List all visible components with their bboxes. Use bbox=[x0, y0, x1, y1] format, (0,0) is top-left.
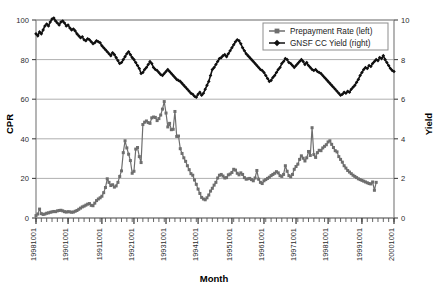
y-axis-right-tick-label: 6 bbox=[401, 95, 405, 104]
data-point-marker bbox=[284, 164, 287, 167]
data-point-marker bbox=[120, 169, 123, 172]
data-point-marker bbox=[181, 152, 184, 155]
data-point-marker bbox=[257, 178, 260, 181]
y-axis-left-title: CPR bbox=[4, 114, 15, 134]
data-point-marker bbox=[339, 158, 342, 161]
data-point-marker bbox=[298, 158, 301, 161]
data-point-marker bbox=[102, 191, 105, 194]
data-point-marker bbox=[337, 155, 340, 158]
y-axis-left-tick-label: 20 bbox=[21, 174, 29, 183]
legend-marker-square bbox=[275, 29, 280, 34]
data-point-marker bbox=[302, 157, 305, 160]
data-point-marker bbox=[172, 128, 175, 131]
data-point-marker bbox=[314, 156, 317, 159]
data-point-marker bbox=[108, 181, 111, 184]
y-axis-right-tick-label: 8 bbox=[401, 56, 405, 65]
data-point-marker bbox=[173, 110, 176, 113]
data-point-marker bbox=[148, 122, 151, 125]
data-point-marker bbox=[193, 178, 196, 181]
data-point-marker bbox=[303, 159, 306, 162]
data-point-marker bbox=[371, 180, 374, 183]
data-point-marker bbox=[104, 186, 107, 189]
data-point-marker bbox=[195, 183, 198, 186]
data-point-marker bbox=[106, 177, 109, 180]
data-point-marker bbox=[234, 169, 237, 172]
y-axis-left-tick-label: 60 bbox=[21, 95, 29, 104]
data-point-marker bbox=[293, 168, 296, 171]
data-point-marker bbox=[211, 187, 214, 190]
y-axis-left-tick-label: 100 bbox=[16, 16, 29, 25]
data-point-marker bbox=[186, 164, 189, 167]
data-point-marker bbox=[213, 184, 216, 187]
data-point-marker bbox=[198, 192, 201, 195]
data-point-marker bbox=[161, 108, 164, 111]
data-point-marker bbox=[332, 146, 335, 149]
data-point-marker bbox=[91, 204, 94, 207]
data-point-marker bbox=[254, 177, 257, 180]
legend-item-label: GNSF CC Yield (right) bbox=[290, 39, 371, 48]
data-point-marker bbox=[305, 156, 308, 159]
data-point-marker bbox=[136, 146, 139, 149]
data-point-marker bbox=[163, 100, 166, 103]
data-point-marker bbox=[118, 175, 121, 178]
data-point-marker bbox=[311, 126, 314, 129]
data-point-marker bbox=[312, 153, 315, 156]
x-axis-tick-label: 19921001 bbox=[127, 228, 136, 261]
data-point-marker bbox=[309, 154, 312, 157]
data-point-marker bbox=[291, 173, 294, 176]
data-point-marker bbox=[168, 122, 171, 125]
data-point-marker bbox=[93, 202, 96, 205]
data-point-marker bbox=[328, 139, 331, 142]
x-axis-tick-label: 19971001 bbox=[289, 228, 298, 261]
y-axis-right-tick-label: 0 bbox=[401, 214, 405, 223]
x-axis-tick-label: 19951001 bbox=[225, 228, 234, 261]
data-point-marker bbox=[325, 143, 328, 146]
data-point-marker bbox=[373, 189, 376, 192]
x-axis-tick-label: 19961001 bbox=[257, 228, 266, 261]
data-point-marker bbox=[188, 168, 191, 171]
data-point-marker bbox=[159, 114, 162, 117]
data-point-marker bbox=[207, 194, 210, 197]
data-point-marker bbox=[140, 161, 143, 164]
x-axis-tick-label: 19981001 bbox=[29, 228, 38, 261]
data-point-marker bbox=[125, 146, 128, 149]
data-point-marker bbox=[38, 208, 41, 211]
data-point-marker bbox=[296, 163, 299, 166]
data-point-marker bbox=[241, 173, 244, 176]
data-point-marker bbox=[179, 147, 182, 150]
x-axis-tick-label: 19901001 bbox=[61, 228, 70, 261]
y-axis-left-tick-label: 80 bbox=[21, 56, 29, 65]
x-axis-tick-label: 20001001 bbox=[387, 228, 396, 261]
data-point-marker bbox=[36, 213, 39, 216]
y-axis-right-tick-label: 4 bbox=[401, 135, 405, 144]
data-point-marker bbox=[205, 196, 208, 199]
y-axis-right-tick-label: 2 bbox=[401, 174, 405, 183]
data-point-marker bbox=[209, 190, 212, 193]
data-point-marker bbox=[225, 176, 228, 179]
data-point-marker bbox=[307, 150, 310, 153]
data-point-marker bbox=[115, 184, 118, 187]
chart-legend: Prepayment Rate (left)GNSF CC Yield (rig… bbox=[263, 23, 388, 50]
data-point-marker bbox=[177, 135, 180, 138]
data-point-marker bbox=[261, 182, 264, 185]
data-point-marker bbox=[191, 174, 194, 177]
data-point-marker bbox=[122, 151, 125, 154]
data-point-marker bbox=[336, 150, 339, 153]
x-axis-tick-label: 19991001 bbox=[355, 228, 364, 261]
data-point-marker bbox=[100, 195, 103, 198]
data-point-marker bbox=[157, 117, 160, 120]
data-point-marker bbox=[255, 169, 258, 172]
data-point-marker bbox=[230, 171, 233, 174]
data-point-marker bbox=[116, 181, 119, 184]
data-point-marker bbox=[124, 139, 127, 142]
data-point-marker bbox=[132, 170, 135, 173]
data-point-marker bbox=[282, 173, 285, 176]
data-point-marker bbox=[319, 149, 322, 152]
y-axis-right-title: Yield bbox=[423, 113, 434, 136]
data-point-marker bbox=[129, 159, 132, 162]
data-point-marker bbox=[216, 177, 219, 180]
x-axis-tick-label: 19931001 bbox=[159, 228, 168, 261]
data-point-marker bbox=[154, 116, 157, 119]
data-point-marker bbox=[330, 143, 333, 146]
data-point-marker bbox=[184, 160, 187, 163]
